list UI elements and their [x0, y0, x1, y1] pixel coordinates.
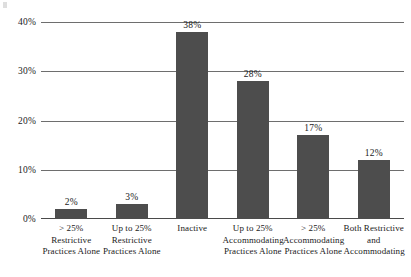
- y-tick-label: 0%: [7, 214, 36, 224]
- bar-slot: 28%: [223, 22, 284, 219]
- bar-value-label: 12%: [365, 148, 383, 158]
- bar-chart: 2%3%38%28%17%12% 0%10%20%30%40% > 25% Re…: [0, 0, 411, 277]
- bar-slot: 2%: [41, 22, 102, 219]
- y-tick-label: 10%: [7, 165, 36, 175]
- bar[interactable]: [55, 209, 87, 219]
- category-label-line: > 25%: [283, 223, 344, 235]
- bar-value-label: 28%: [244, 69, 262, 79]
- bar-slot: 3%: [102, 22, 163, 219]
- category-label-line: Inactive: [162, 223, 223, 235]
- bar-value-label: 17%: [304, 123, 322, 133]
- category-label: Up to 25%AccommodatingPractices Alone: [223, 223, 284, 258]
- scan-artifact: [3, 2, 7, 8]
- category-label-line: and: [344, 235, 405, 247]
- bar-value-label: 38%: [183, 20, 201, 30]
- category-label-line: Restrictive: [102, 235, 163, 247]
- category-label-line: Up to 25%: [102, 223, 163, 235]
- y-tick-label: 40%: [7, 17, 36, 27]
- bar-value-label: 3%: [125, 192, 138, 202]
- bar[interactable]: [237, 81, 269, 219]
- category-label-line: Up to 25%: [223, 223, 284, 235]
- category-label-line: Practices Alone: [41, 246, 102, 258]
- category-label-line: Accommodating: [344, 246, 405, 258]
- bar-slot: 38%: [162, 22, 223, 219]
- category-label: Both RestrictiveandAccommodating: [344, 223, 405, 258]
- category-label: > 25% RestrictivePractices Alone: [41, 223, 102, 258]
- bar-slot: 12%: [344, 22, 405, 219]
- category-label-line: Practices Alone: [283, 246, 344, 258]
- plot-area: 2%3%38%28%17%12%: [41, 22, 404, 219]
- category-label-line: Practices Alone: [223, 246, 284, 258]
- bar-series: 2%3%38%28%17%12%: [41, 22, 404, 219]
- category-label: Inactive: [162, 223, 223, 235]
- category-label-line: Accommodating: [283, 235, 344, 247]
- bar[interactable]: [297, 135, 329, 219]
- category-label: Up to 25%RestrictivePractices Alone: [102, 223, 163, 258]
- category-label-line: > 25% Restrictive: [41, 223, 102, 246]
- x-axis-labels: > 25% RestrictivePractices AloneUp to 25…: [41, 223, 404, 275]
- category-label: > 25%AccommodatingPractices Alone: [283, 223, 344, 258]
- category-label-line: Accommodating: [223, 235, 284, 247]
- y-tick-label: 30%: [7, 66, 36, 76]
- bar-slot: 17%: [283, 22, 344, 219]
- bar-value-label: 2%: [65, 197, 78, 207]
- category-label-line: Practices Alone: [102, 246, 163, 258]
- bar[interactable]: [176, 32, 208, 219]
- bar[interactable]: [116, 204, 148, 219]
- bar[interactable]: [358, 160, 390, 219]
- y-tick-label: 20%: [7, 116, 36, 126]
- category-label-line: Both Restrictive: [344, 223, 405, 235]
